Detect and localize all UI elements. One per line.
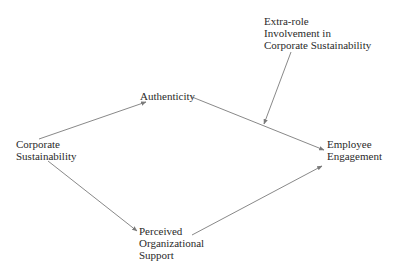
node-line: Corporate [16, 138, 77, 150]
node-line: Employee [327, 138, 382, 150]
node-line: Involvement in [264, 27, 371, 39]
edge-cs-to-authenticity [39, 102, 146, 139]
node-employee-engagement: Employee Engagement [327, 138, 382, 162]
node-line: Perceived [139, 225, 204, 237]
node-line: Extra-role [264, 15, 371, 27]
node-extra-role-involvement: Extra-role Involvement in Corporate Sust… [264, 15, 371, 51]
node-line: Organizational [139, 237, 204, 249]
edge-moderator [264, 52, 291, 124]
edge-authenticity-to-ee [192, 97, 324, 150]
node-line: Support [139, 249, 204, 261]
node-authenticity: Authenticity [140, 90, 195, 102]
node-perceived-organizational-support: Perceived Organizational Support [139, 225, 204, 261]
node-corporate-sustainability: Corporate Sustainability [16, 138, 77, 162]
edge-cs-to-pos [48, 161, 137, 231]
node-line: Sustainability [16, 150, 77, 162]
node-line: Corporate Sustainability [264, 39, 371, 51]
node-line: Engagement [327, 150, 382, 162]
edge-pos-to-ee [192, 166, 322, 235]
node-line: Authenticity [140, 90, 195, 102]
